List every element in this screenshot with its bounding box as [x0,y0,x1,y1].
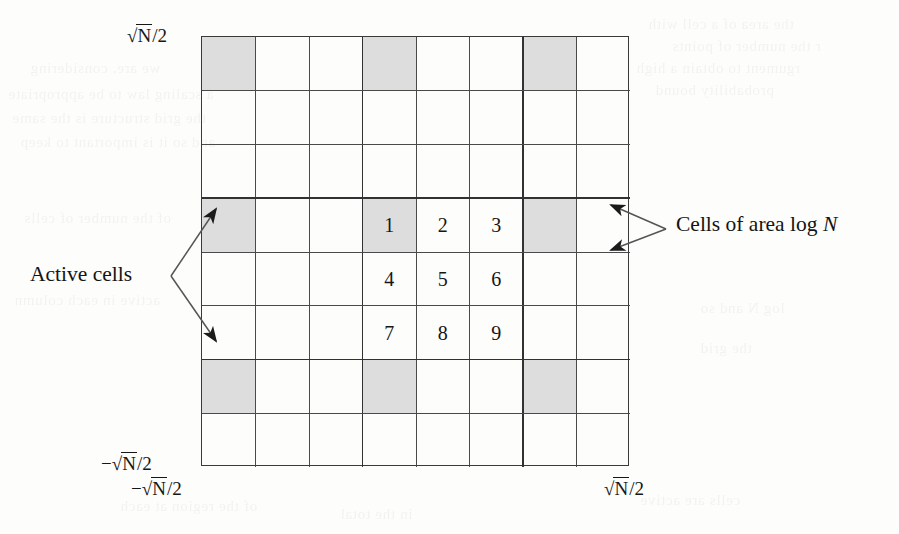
axis-label-bottom-left-x: −√N/2 [131,477,182,500]
grid-cell-r5c6: 6 [470,252,524,306]
callout-text-italic-n: N [823,212,837,236]
grid-cell-r5c2 [256,252,310,306]
grid-cell-r7c3 [309,360,363,414]
grid-cell-r8c7 [523,413,577,467]
grid-cell-r3c7 [523,145,577,199]
grid-line-horizontal-3 [202,197,630,199]
grid-cell-r8c8 [577,413,631,467]
grid-cell-r2c1 [202,91,256,145]
axis-label-bottom-left-y: −√N/2 [101,452,152,475]
grid-cell-r2c3 [309,91,363,145]
grid-cell-number: 7 [384,323,394,343]
grid-cell-r5c4: 4 [363,252,417,306]
grid-cell-r6c7 [523,306,577,360]
grid-cell-r1c3 [309,37,363,91]
axis-label-bottom-right-x: √N/2 [604,477,644,500]
radicand: N [613,477,629,500]
ghost-text-line-8: and so it is important to keep [20,134,215,151]
ghost-text-line-1: the area of a cell with [648,16,794,33]
sqrt-expression: √N [604,477,629,500]
divisor-text: /2 [137,453,152,474]
axis-label-top-left: √N/2 [127,24,167,47]
grid-cell-r7c4 [363,360,417,414]
grid-cell-r2c8 [577,91,631,145]
grid-cell-r2c2 [256,91,310,145]
grid-cell-r1c8 [577,37,631,91]
sqrt-expression: √N [112,452,137,475]
grid-cell-r7c2 [256,360,310,414]
grid-cell-r7c5 [416,360,470,414]
divisor-text: /2 [152,25,167,46]
divisor-text: /2 [167,478,182,499]
grid-line-horizontal-5 [202,305,630,306]
grid-cell-r6c2 [256,306,310,360]
grid-cell-number: 1 [384,215,394,235]
grid-cell-r4c4: 1 [363,198,417,252]
ghost-text-line-9: of the number of cells [24,210,171,227]
cell-grid: 123456789 [201,36,629,466]
grid-cell-r6c3 [309,306,363,360]
grid-line-horizontal-2 [202,144,630,145]
grid-cell-r3c6 [470,145,524,199]
grid-cell-r1c1 [202,37,256,91]
grid-cell-r8c4 [363,413,417,467]
grid-cell-r6c4: 7 [363,306,417,360]
grid-cell-r4c3 [309,198,363,252]
grid-cell-r3c8 [577,145,631,199]
grid-cell-r8c2 [256,413,310,467]
minus-sign: − [101,453,112,474]
radicand: N [151,477,167,500]
grid-cell-r6c1 [202,306,256,360]
grid-cell-number: 2 [438,215,448,235]
grid-cell-r2c4 [363,91,417,145]
radicand: N [136,24,152,47]
grid-cell-r6c8 [577,306,631,360]
grid-cell-r4c7 [523,198,577,252]
ghost-text-line-15: in the total [340,506,413,523]
grid-line-horizontal-7 [202,413,630,414]
ghost-text-line-5: we are, considering [30,60,160,77]
ghost-text-line-2: r the number of points [672,38,821,55]
grid-cell-r7c8 [577,360,631,414]
ghost-text-line-3: rgument to obtain a high [636,60,800,77]
grid-cell-r4c5: 2 [416,198,470,252]
sqrt-expression: √N [127,24,152,47]
grid-line-horizontal-4 [202,252,630,253]
ghost-text-line-13: of the region at each [120,498,257,515]
grid-cell-r4c1 [202,198,256,252]
grid-cell-r1c6 [470,37,524,91]
minus-sign: − [131,478,142,499]
grid-cell-r2c7 [523,91,577,145]
grid-cell-r1c2 [256,37,310,91]
ghost-text-line-14: cells are active [640,492,740,509]
grid-cell-r1c7 [523,37,577,91]
grid-cell-r8c6 [470,413,524,467]
grid-cell-r6c6: 9 [470,306,524,360]
callout-label-cells-of-area-logn: Cells of area log N [676,212,837,237]
callout-label-active-cells: Active cells [30,262,132,287]
grid-cell-r7c7 [523,360,577,414]
grid-cell-r8c3 [309,413,363,467]
grid-cell-number: 8 [438,323,448,343]
ghost-text-line-6: a scaling law to be appropriate [8,86,213,103]
grid-cell-r7c6 [470,360,524,414]
ghost-text-line-4: probability bound [655,82,774,99]
grid-cell-r1c5 [416,37,470,91]
figure-container: the area of a cell withr the number of p… [0,0,899,534]
grid-cell-r3c5 [416,145,470,199]
grid-cell-r2c5 [416,91,470,145]
grid-cell-number: 4 [384,269,394,289]
grid-line-horizontal-6 [202,359,630,361]
grid-cell-r4c6: 3 [470,198,524,252]
grid-cell-r3c2 [256,145,310,199]
ghost-text-line-11: log N and so [700,300,785,317]
sqrt-expression: √N [142,477,167,500]
grid-line-horizontal-1 [202,90,630,91]
grid-cell-r6c5: 8 [416,306,470,360]
grid-cell-r3c4 [363,145,417,199]
grid-cell-r5c5: 5 [416,252,470,306]
ghost-text-line-7: the grid structure is the same [12,110,206,127]
grid-cell-r5c3 [309,252,363,306]
grid-cell-r3c1 [202,145,256,199]
grid-cell-r8c5 [416,413,470,467]
